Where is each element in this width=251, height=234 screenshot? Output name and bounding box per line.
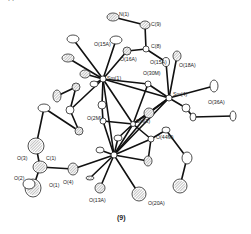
atom-shading-E20 (87, 176, 93, 179)
atom-shading-E11 (145, 109, 153, 117)
atom-label-O18A: O(18A) (179, 62, 196, 68)
bond-layer (33, 17, 233, 194)
atom-O36A (210, 80, 218, 92)
atom-label-Sm1: Sm(1) (107, 75, 121, 81)
atom-label-Sm2: Sm(2) (0, 0, 14, 1)
atom-shading-E2 (63, 55, 73, 61)
atom-Sm1 (100, 76, 106, 82)
atom-label-O30M: O(30M) (143, 70, 161, 76)
atom-shading-E5 (73, 84, 79, 90)
atom-shading-O18A (174, 52, 180, 60)
atom-label-O15A_r: O(15A) (150, 59, 167, 65)
atom-label-Sm4: Sm(4) (173, 91, 187, 97)
atom-shading-N1 (108, 14, 118, 20)
atom-shading-E6 (54, 91, 60, 101)
atom-C8 (143, 46, 149, 52)
atom-O30M (145, 81, 151, 87)
atom-label-O2M: O(2M) (87, 115, 102, 121)
atom-label-O16A: O(16A) (120, 56, 137, 62)
atom-label-C8: C(8) (151, 43, 161, 49)
atom-label-O44M: O(44M) (156, 134, 174, 140)
atom-E14 (182, 104, 190, 112)
molecular-structure-diagram: Sm(1)Sm(2)Sm(3)Sm(4)N(1)C(9)C(8)O(15A)O(… (0, 0, 251, 234)
atom-label-O20A: O(20A) (148, 200, 165, 206)
atom-shading-C1 (34, 162, 45, 172)
atom-shading-E3 (81, 71, 89, 77)
atom-E7 (38, 104, 50, 112)
atom-shading-C3 (30, 140, 43, 153)
atom-label-O2: O(2) (14, 175, 25, 181)
bond-Sm1-Sm2 (103, 79, 114, 155)
atom-E12 (190, 113, 196, 121)
atom-label-N1: N(1) (119, 11, 129, 17)
bond-Sm4-O30M (148, 84, 169, 98)
atom-label-O1: O(1) (49, 182, 60, 188)
atom-E13 (230, 111, 236, 121)
atom-label-O36A: O(36A) (208, 99, 225, 105)
bond-Sm4-O15A_r (166, 62, 169, 98)
atom-layer (23, 13, 236, 201)
atom-shading-E17 (174, 180, 185, 191)
atom-E10 (98, 101, 106, 109)
atom-E16 (182, 152, 192, 164)
atom-Sm2 (111, 152, 117, 158)
bond-Sm2-E18 (114, 155, 148, 161)
bond-Sm3-O2M (103, 121, 133, 124)
atom-label-O4: O(4) (63, 179, 74, 185)
atom-label-C1: C(1) (46, 155, 56, 161)
atom-E4 (90, 81, 98, 87)
atom-shading-O13A (96, 184, 104, 192)
atom-O2 (23, 179, 35, 189)
atom-shading-E9 (76, 128, 82, 134)
atom-shading-E18 (145, 157, 151, 165)
atom-label-O13A: O(13A) (89, 197, 106, 203)
atom-Sm3 (131, 122, 136, 127)
atom-label-O15A_top: O(15A) (94, 41, 111, 47)
atom-Sm4 (166, 95, 172, 101)
atom-label-C9: C(9) (151, 21, 161, 27)
atom-E8 (66, 106, 74, 114)
atom-E21 (96, 147, 104, 153)
atom-O44M (148, 136, 154, 142)
atom-shading-O20A (133, 188, 144, 199)
atom-E1 (67, 35, 79, 43)
atom-E19 (114, 135, 122, 141)
label-layer: Sm(1)Sm(2)Sm(3)Sm(4)N(1)C(9)C(8)O(15A)O(… (0, 0, 225, 206)
atom-label-C3: O(3) (17, 155, 28, 161)
figure-caption: (9) (117, 214, 126, 222)
atom-O15A_top (110, 36, 122, 44)
bond-Sm2-O2M (103, 121, 114, 155)
atom-E15 (162, 127, 170, 133)
bond-E12-E13 (193, 116, 233, 117)
atom-label-Sm3: Sm(3) (136, 118, 150, 124)
atom-shading-C9 (141, 22, 149, 28)
atom-shading-O16A (124, 48, 130, 54)
atom-shading-O4 (69, 164, 77, 174)
